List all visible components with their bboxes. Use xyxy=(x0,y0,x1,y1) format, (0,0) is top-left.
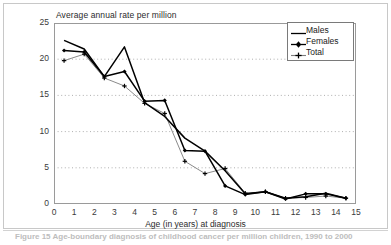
x-axis-tick-label: 2 xyxy=(84,207,104,217)
x-axis-tick-label: 14 xyxy=(326,207,346,217)
series-females xyxy=(62,48,348,201)
data-point-marker xyxy=(163,98,167,102)
series-total xyxy=(62,52,348,200)
legend-label-females: Females xyxy=(306,36,339,47)
x-axis-tick-label: 0 xyxy=(44,207,64,217)
chart-title: Average annual rate per million xyxy=(56,10,177,20)
data-point-marker xyxy=(183,148,187,152)
legend-label-males: Males xyxy=(306,25,329,36)
series-lines xyxy=(62,40,348,201)
x-axis-label: Age (in years) at diagnosis xyxy=(4,219,387,229)
legend-marker-diamond-icon xyxy=(291,36,306,47)
figure-caption-strip: Figure 15 Age-boundary diagnosis of chil… xyxy=(3,230,388,245)
x-axis-tick-label: 7 xyxy=(185,207,205,217)
y-axis-tick-label: 15 xyxy=(9,89,49,99)
x-axis-tick-label: 6 xyxy=(165,207,185,217)
x-axis-tick-label: 5 xyxy=(145,207,165,217)
y-axis-tick-label: 5 xyxy=(9,162,49,172)
y-axis-tick-label: 20 xyxy=(9,53,49,63)
chart-legend: Males Females xyxy=(287,22,354,61)
legend-item-females[interactable]: Females xyxy=(291,36,351,47)
data-point-marker xyxy=(62,48,66,52)
legend-marker-line-icon xyxy=(291,25,306,36)
x-axis-tick-label: 13 xyxy=(306,207,326,217)
data-point-marker xyxy=(304,192,308,196)
page: Average annual rate per million 05101520… xyxy=(0,0,391,245)
legend-item-total[interactable]: Total xyxy=(291,47,351,58)
x-axis-tick-label: 10 xyxy=(245,207,265,217)
x-axis-tick-label: 1 xyxy=(64,207,84,217)
x-axis-tick-label: 15 xyxy=(346,207,366,217)
y-axis-tick-label: 10 xyxy=(9,126,49,136)
x-axis-tick-label: 4 xyxy=(125,207,145,217)
x-axis-tick-label: 3 xyxy=(104,207,124,217)
x-axis-tick-label: 12 xyxy=(286,207,306,217)
x-axis-tick-label: 8 xyxy=(205,207,225,217)
legend-label-total: Total xyxy=(306,47,324,58)
y-axis-tick-label: 0 xyxy=(9,198,49,208)
y-axis-tick-label: 25 xyxy=(9,17,49,27)
legend-marker-cross-icon xyxy=(291,47,306,58)
legend-item-males[interactable]: Males xyxy=(291,25,351,36)
x-axis-tick-label: 9 xyxy=(225,207,245,217)
x-axis-tick-label: 11 xyxy=(265,207,285,217)
chart-figure: Average annual rate per million 05101520… xyxy=(4,4,387,229)
figure-caption: Figure 15 Age-boundary diagnosis of chil… xyxy=(15,232,353,241)
